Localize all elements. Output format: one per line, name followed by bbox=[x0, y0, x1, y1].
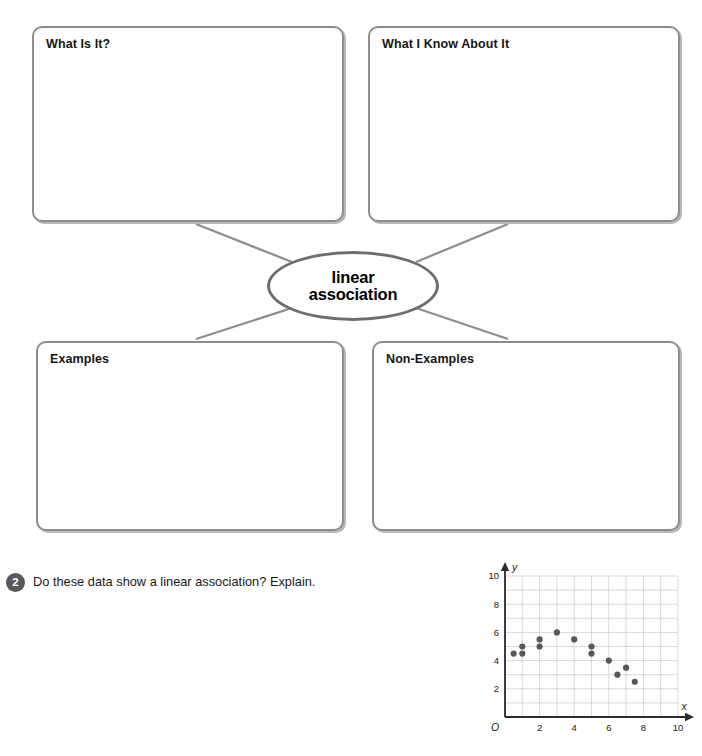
concept-box-examples[interactable]: Examples bbox=[36, 341, 344, 531]
data-point bbox=[614, 672, 620, 678]
data-point bbox=[588, 643, 594, 649]
x-tick-label: 10 bbox=[673, 722, 684, 733]
connector-top-right bbox=[416, 224, 508, 262]
x-tick-label: 6 bbox=[606, 722, 611, 733]
data-point bbox=[519, 643, 525, 649]
question-text: Do these data show a linear association?… bbox=[33, 574, 315, 589]
question-row: 2 Do these data show a linear associatio… bbox=[0, 572, 470, 602]
center-term-oval: linear association bbox=[267, 251, 439, 321]
data-point bbox=[537, 643, 543, 649]
data-point bbox=[588, 650, 594, 656]
y-tick-label: 8 bbox=[494, 599, 499, 610]
data-point bbox=[519, 650, 525, 656]
connector-bottom-right bbox=[416, 308, 508, 339]
scatter-plot: 246810246810O yx bbox=[470, 560, 702, 756]
y-tick-label: 6 bbox=[494, 627, 499, 638]
plot-tick-labels: 246810246810O bbox=[488, 570, 683, 733]
data-point bbox=[554, 629, 560, 635]
y-tick-label: 4 bbox=[494, 655, 499, 666]
y-tick-label: 2 bbox=[494, 683, 499, 694]
concept-box-non-examples[interactable]: Non-Examples bbox=[372, 341, 680, 531]
x-tick-label: 2 bbox=[537, 722, 542, 733]
concept-box-title: Non-Examples bbox=[386, 352, 474, 366]
data-point bbox=[571, 636, 577, 642]
x-axis-label: x bbox=[680, 700, 687, 712]
x-tick-label: 4 bbox=[572, 722, 577, 733]
concept-box-what-i-know[interactable]: What I Know About It bbox=[368, 26, 680, 222]
connector-top-left bbox=[196, 224, 292, 262]
data-point bbox=[511, 650, 517, 656]
data-point bbox=[606, 658, 612, 664]
data-point bbox=[632, 679, 638, 685]
concept-map: What Is It? What I Know About It Example… bbox=[0, 0, 702, 550]
y-axis-label: y bbox=[511, 561, 518, 573]
concept-box-what-is-it[interactable]: What Is It? bbox=[32, 26, 344, 222]
center-term-label: linear association bbox=[309, 269, 398, 303]
question-number-badge: 2 bbox=[6, 573, 25, 592]
concept-box-title: What Is It? bbox=[46, 37, 110, 51]
x-tick-label: 8 bbox=[641, 722, 646, 733]
concept-box-title: Examples bbox=[50, 352, 109, 366]
origin-label: O bbox=[491, 721, 499, 733]
x-axis-arrowhead bbox=[685, 713, 694, 721]
concept-box-title: What I Know About It bbox=[382, 37, 509, 51]
y-tick-label: 10 bbox=[488, 570, 499, 581]
data-point bbox=[623, 665, 629, 671]
plot-axes bbox=[501, 562, 694, 721]
y-axis-arrowhead bbox=[501, 562, 509, 571]
data-point bbox=[537, 636, 543, 642]
connector-bottom-left bbox=[196, 308, 292, 339]
